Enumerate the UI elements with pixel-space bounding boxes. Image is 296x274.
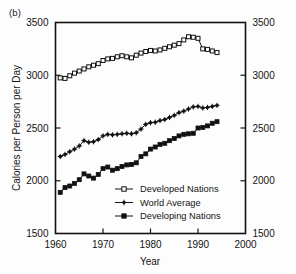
data-point (144, 50, 148, 54)
data-point (92, 63, 96, 67)
data-point (149, 147, 153, 151)
x-tick-label: 1970 (92, 239, 115, 250)
data-point (115, 167, 119, 171)
data-point (63, 186, 67, 190)
data-point (195, 104, 200, 109)
data-point (77, 178, 81, 182)
data-point (177, 42, 181, 46)
legend-label: Developing Nations (140, 211, 221, 221)
data-point (172, 113, 177, 118)
data-point (130, 162, 134, 166)
data-point (196, 126, 200, 130)
y-tick-label-right: 2500 (253, 123, 276, 134)
chart-legend: Developed NationsWorld AverageDeveloping… (115, 184, 221, 221)
data-point (157, 118, 162, 123)
data-point (62, 152, 67, 157)
data-point (200, 105, 205, 110)
data-point (130, 56, 134, 60)
data-point (77, 69, 81, 73)
data-point (106, 57, 110, 61)
y-tick-label-right: 1500 (253, 228, 276, 239)
data-point (206, 47, 210, 51)
data-point (167, 115, 172, 120)
data-point (163, 141, 167, 145)
data-point (158, 48, 162, 52)
data-point (172, 137, 176, 141)
data-point (134, 53, 138, 57)
data-point (73, 71, 77, 75)
data-point (168, 139, 172, 143)
data-point (187, 35, 191, 39)
data-point (110, 132, 115, 137)
data-point (68, 184, 72, 188)
data-point (177, 134, 181, 138)
legend-item-3: Developing Nations (115, 211, 221, 221)
data-point (148, 120, 153, 125)
data-point (119, 131, 124, 136)
data-point (182, 132, 186, 136)
data-point (196, 36, 200, 40)
data-point (106, 165, 110, 169)
data-point (63, 76, 67, 80)
x-tick-label: 2000 (234, 239, 257, 250)
data-point (124, 131, 129, 136)
data-point (58, 190, 62, 194)
data-point (73, 181, 77, 185)
data-point (215, 51, 219, 55)
data-point (210, 121, 214, 125)
data-point (172, 43, 176, 47)
data-point (205, 105, 210, 110)
legend-marker-open-square (122, 187, 126, 191)
figure-panel: (b) 15002000250030003500 150020002500300… (0, 0, 296, 274)
data-point (87, 174, 91, 178)
data-point (176, 110, 181, 115)
data-point (210, 49, 214, 53)
y-tick-label-left: 1500 (26, 228, 49, 239)
y-tick-label-left: 3500 (26, 17, 49, 28)
data-point (125, 163, 129, 167)
data-point (206, 124, 210, 128)
data-point (153, 120, 158, 125)
data-point (68, 74, 72, 78)
data-point (96, 172, 100, 176)
data-point (87, 65, 91, 69)
series-1 (58, 35, 219, 81)
legend-marker-filled-square (122, 214, 126, 218)
legend-label: World Average (140, 198, 201, 208)
data-point (162, 117, 167, 122)
x-tick-label: 1960 (44, 239, 67, 250)
data-point (181, 109, 186, 114)
y-axis-title: Calories per Person per Day (11, 65, 22, 191)
y-tick-label-right: 3500 (253, 17, 276, 28)
y-tick-label-left: 2500 (26, 123, 49, 134)
x-tick-label: 1990 (187, 239, 210, 250)
data-point (101, 58, 105, 62)
data-point (111, 56, 115, 60)
data-point (163, 46, 167, 50)
data-point (215, 120, 219, 124)
data-point (182, 38, 186, 42)
legend-item-1: Developed Nations (115, 184, 219, 194)
legend-label: Developed Nations (140, 184, 219, 194)
data-point (168, 45, 172, 49)
legend-marker-cross (121, 200, 127, 206)
data-series-layer (58, 35, 220, 195)
data-point (82, 67, 86, 71)
data-point (67, 149, 72, 154)
data-point (187, 132, 191, 136)
data-point (96, 62, 100, 66)
x-tick-label: 1980 (139, 239, 162, 250)
legend-item-2: World Average (115, 198, 201, 208)
data-point (82, 172, 86, 176)
data-point (115, 55, 119, 59)
data-point (186, 106, 191, 111)
data-point (191, 131, 195, 135)
data-point (214, 103, 219, 108)
data-point (139, 154, 143, 158)
calories-per-person-line-chart: 15002000250030003500 1500200025003000350… (0, 0, 296, 274)
data-point (210, 104, 215, 109)
y-tick-label-right: 3000 (253, 70, 276, 81)
data-point (153, 49, 157, 53)
data-point (120, 165, 124, 169)
data-point (58, 76, 62, 80)
